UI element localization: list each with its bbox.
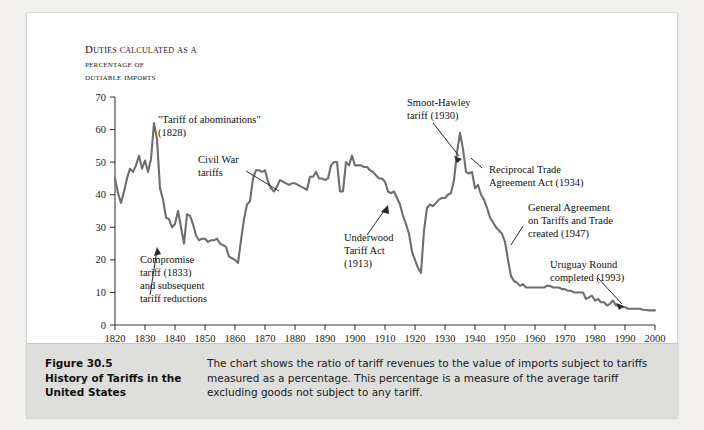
annotation-uruguay-round: Uruguay Round completed (1993): [550, 258, 624, 284]
x-axis: 1820183018401850186018701880189019001910…: [105, 325, 666, 343]
x-tick-label-1930: 1930: [435, 333, 456, 343]
x-tick-label-1870: 1870: [255, 333, 276, 343]
x-tick-label-1970: 1970: [555, 333, 576, 343]
y-tick-label-0: 0: [101, 320, 106, 331]
x-tick-label-1960: 1960: [525, 333, 546, 343]
x-tick-label-1890: 1890: [315, 333, 336, 343]
figure-caption-title: Figure 30.5 History of Tariffs in the Un…: [27, 344, 203, 417]
x-tick-label-1820: 1820: [105, 333, 126, 343]
x-tick-label-1920: 1920: [405, 333, 426, 343]
annotation-smoot-hawley: Smoot-Hawley tariff (1930): [407, 96, 471, 122]
x-tick-label-1940: 1940: [465, 333, 486, 343]
x-tick-label-1910: 1910: [375, 333, 396, 343]
y-tick-label-40: 40: [96, 189, 107, 200]
y-tick-label-30: 30: [96, 222, 107, 233]
y-tick-label-70: 70: [96, 92, 107, 103]
x-tick-label-1860: 1860: [225, 333, 246, 343]
y-axis-title-line3: dutiable imports: [85, 72, 156, 82]
figure-title-line2: United States: [45, 385, 193, 400]
x-tick-label-2000: 2000: [645, 333, 666, 343]
chart-plot-area: 010203040506070 182018301840185018601870…: [27, 13, 679, 343]
figure-title-line1: History of Tariffs in the: [45, 371, 193, 386]
annotation-tariff-of-abominations: "Tariff of abominations" (1828): [158, 113, 261, 139]
annotation-compromise-tariff: Compromise tariff (1833) and subsequent …: [140, 253, 207, 305]
figure-caption-body: The chart shows the ratio of tariff reve…: [203, 344, 679, 417]
x-tick-label-1990: 1990: [615, 333, 636, 343]
y-tick-label-60: 60: [96, 124, 107, 135]
x-tick-label-1880: 1880: [285, 333, 306, 343]
x-tick-label-1950: 1950: [495, 333, 516, 343]
annotation-civil-war-tariffs: Civil War tariffs: [198, 153, 239, 179]
y-tick-label-20: 20: [96, 254, 107, 265]
x-tick-label-1900: 1900: [345, 333, 366, 343]
figure-page: 010203040506070 182018301840185018601870…: [0, 0, 704, 430]
y-axis-title-line1: Duties calculated as a: [85, 43, 197, 55]
annotation-underwood-tariff-act: Underwood Tariff Act (1913): [344, 231, 394, 270]
y-axis-title-line2: percentage of: [85, 59, 144, 69]
x-tick-label-1850: 1850: [195, 333, 216, 343]
y-axis-title: Duties calculated as a percentage of dut…: [85, 43, 295, 85]
figure-number: Figure 30.5: [45, 356, 193, 371]
figure-caption-band: Figure 30.5 History of Tariffs in the Un…: [27, 343, 679, 417]
y-tick-label-10: 10: [96, 287, 107, 298]
x-tick-label-1830: 1830: [135, 333, 156, 343]
y-tick-label-50: 50: [96, 157, 107, 168]
figure-card: 010203040506070 182018301840185018601870…: [26, 12, 678, 418]
x-tick-label-1840: 1840: [165, 333, 186, 343]
x-tick-label-1980: 1980: [585, 333, 606, 343]
y-axis: 010203040506070: [96, 92, 116, 331]
annotation-gatt-created: General Agreement on Tariffs and Trade c…: [528, 201, 613, 240]
annotation-reciprocal-trade: Reciprocal Trade Agreement Act (1934): [489, 163, 583, 189]
